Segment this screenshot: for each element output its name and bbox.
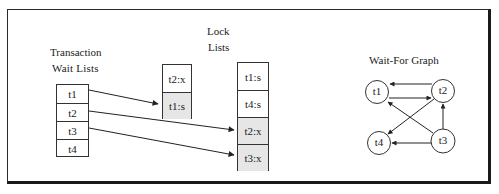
graph-node-label-t1: t1 [365, 85, 389, 98]
pointer-arrow-t1 [89, 90, 158, 104]
graph-node-label-t2: t2 [431, 84, 455, 97]
diagram-edges [0, 0, 499, 194]
pointer-arrow-t2 [89, 111, 234, 130]
graph-node-label-t3: t3 [431, 134, 455, 147]
graph-node-label-t4: t4 [367, 136, 391, 149]
pointer-arrow-t3 [89, 128, 234, 155]
